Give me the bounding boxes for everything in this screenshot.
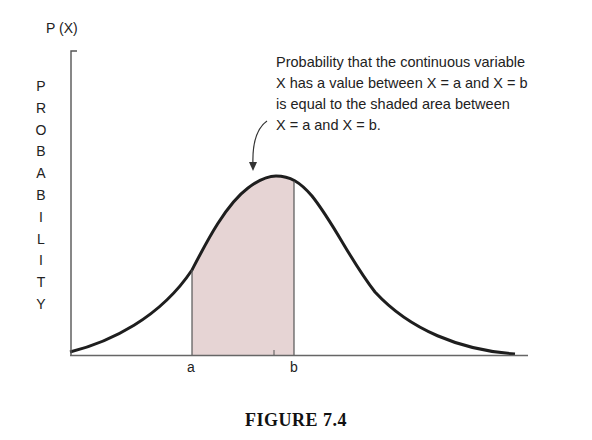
figure-caption: FIGURE 7.4: [0, 410, 592, 431]
y-label-letter: A: [34, 163, 48, 185]
y-axis-vertical-label: P R O B A B I L I T Y: [34, 76, 48, 316]
y-label-letter: B: [34, 185, 48, 207]
annotation-line: X has a value between X = a and X = b: [276, 73, 586, 94]
y-label-letter: P: [34, 76, 48, 98]
shaded-area-a-to-b: [192, 176, 294, 355]
x-label-b: b: [290, 359, 298, 375]
probability-density-figure: P (X) P R O B A B I L I T Y Probability …: [0, 0, 592, 440]
y-label-letter: O: [34, 120, 48, 142]
y-label-letter: I: [34, 207, 48, 229]
y-label-letter: B: [34, 141, 48, 163]
annotation-line: is equal to the shaded area between: [276, 94, 586, 115]
y-label-letter: R: [34, 98, 48, 120]
annotation-line: Probability that the continuous variable: [276, 52, 586, 73]
annotation-arrow: [253, 121, 267, 166]
y-axis-title: P (X): [46, 20, 78, 36]
arrowhead-icon: [249, 162, 257, 171]
y-label-letter: L: [34, 229, 48, 251]
y-label-letter: I: [34, 250, 48, 272]
annotation-text: Probability that the continuous variable…: [276, 52, 586, 136]
y-axis: [71, 51, 77, 356]
annotation-line: X = a and X = b.: [276, 115, 586, 136]
y-label-letter: Y: [34, 294, 48, 316]
x-label-a: a: [187, 359, 195, 375]
y-label-letter: T: [34, 272, 48, 294]
